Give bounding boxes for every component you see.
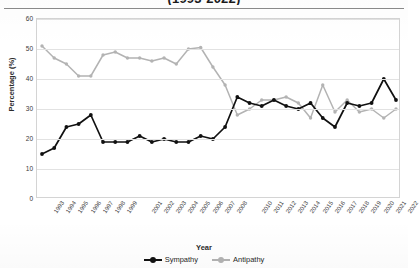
x-tick-label: 2022 — [407, 200, 419, 214]
data-point-antipathy — [126, 56, 129, 59]
data-point-sympathy — [235, 95, 239, 99]
data-point-sympathy — [321, 116, 325, 120]
gridline — [37, 49, 399, 50]
title-divider — [4, 8, 404, 9]
plot-area — [36, 18, 400, 198]
data-point-sympathy — [138, 134, 142, 138]
legend-label: Sympathy — [165, 255, 198, 264]
data-point-sympathy — [260, 104, 264, 108]
y-tick-label: 0 — [3, 195, 33, 202]
x-tick-label: 2014 — [309, 200, 322, 214]
data-point-sympathy — [150, 140, 154, 144]
x-tick-label: 2017 — [346, 200, 359, 214]
x-tick-label: 2002 — [163, 200, 176, 214]
series-line-antipathy — [42, 46, 396, 118]
data-point-sympathy — [199, 134, 203, 138]
data-point-sympathy — [113, 140, 117, 144]
y-tick-label: 10 — [3, 165, 33, 172]
y-tick-label: 40 — [3, 75, 33, 82]
data-point-antipathy — [211, 65, 214, 68]
x-tick-label: 2015 — [321, 200, 334, 214]
data-point-sympathy — [187, 140, 191, 144]
x-tick-label: 1993 — [53, 200, 66, 214]
data-point-antipathy — [114, 50, 117, 53]
legend-item-sympathy[interactable]: Sympathy — [144, 255, 198, 264]
legend-swatch-icon — [144, 259, 162, 261]
data-point-antipathy — [260, 98, 263, 101]
x-tick-label: 1996 — [89, 200, 102, 214]
data-point-sympathy — [65, 125, 69, 129]
gridline — [37, 79, 399, 80]
data-point-sympathy — [126, 140, 130, 144]
data-point-sympathy — [40, 152, 44, 156]
x-tick-label: 2007 — [224, 200, 237, 214]
x-tick-label: 2012 — [285, 200, 298, 214]
data-point-antipathy — [77, 74, 80, 77]
x-tick-label: 2021 — [394, 200, 407, 214]
x-tick-label: 2008 — [236, 200, 249, 214]
data-point-sympathy — [370, 101, 374, 105]
x-tick-label: 1995 — [77, 200, 90, 214]
data-point-sympathy — [52, 146, 56, 150]
data-point-sympathy — [333, 125, 337, 129]
data-point-antipathy — [101, 53, 104, 56]
y-tick-label: 50 — [3, 45, 33, 52]
data-point-antipathy — [358, 110, 361, 113]
data-point-antipathy — [175, 62, 178, 65]
data-point-sympathy — [272, 98, 276, 102]
x-tick-label: 2010 — [260, 200, 273, 214]
data-point-sympathy — [309, 101, 313, 105]
data-point-antipathy — [40, 44, 43, 47]
y-tick-label: 60 — [3, 15, 33, 22]
data-point-antipathy — [284, 95, 287, 98]
data-point-sympathy — [357, 104, 361, 108]
data-point-antipathy — [309, 116, 312, 119]
legend-swatch-icon — [212, 259, 230, 261]
x-tick-label: 2011 — [272, 200, 284, 214]
data-point-antipathy — [321, 83, 324, 86]
data-point-antipathy — [150, 59, 153, 62]
x-tick-label: 2018 — [358, 200, 371, 214]
data-point-antipathy — [297, 101, 300, 104]
data-point-antipathy — [382, 116, 385, 119]
y-tick-label: 30 — [3, 105, 33, 112]
x-tick-label: 2005 — [199, 200, 212, 214]
x-tick-label: 1999 — [126, 200, 139, 214]
y-tick-label: 20 — [3, 135, 33, 142]
gridline — [37, 139, 399, 140]
y-axis-ticks: 0102030405060 — [0, 18, 33, 198]
x-tick-label: 1997 — [102, 200, 115, 214]
data-point-sympathy — [248, 101, 252, 105]
series-line-sympathy — [42, 79, 396, 154]
data-point-antipathy — [53, 56, 56, 59]
x-tick-label: 2004 — [187, 200, 200, 214]
data-point-sympathy — [345, 101, 349, 105]
x-axis-label: Year — [0, 243, 408, 252]
gridline — [37, 169, 399, 170]
x-tick-label: 1998 — [114, 200, 127, 214]
legend-label: Antipathy — [233, 255, 264, 264]
x-tick-label: 2013 — [297, 200, 310, 214]
data-point-antipathy — [162, 56, 165, 59]
x-tick-label: 1994 — [65, 200, 78, 214]
legend-item-antipathy[interactable]: Antipathy — [212, 255, 264, 264]
data-point-sympathy — [223, 125, 227, 129]
x-tick-label: 2001 — [150, 200, 163, 214]
x-tick-label: 2019 — [370, 200, 383, 214]
x-tick-label: 2006 — [211, 200, 224, 214]
chart-legend: SympathyAntipathy — [0, 255, 408, 264]
chart-title: (1993-2022) — [0, 0, 408, 5]
data-point-antipathy — [223, 83, 226, 86]
x-tick-label: 2020 — [382, 200, 395, 214]
data-point-antipathy — [138, 56, 141, 59]
data-point-sympathy — [284, 104, 288, 108]
data-point-antipathy — [89, 74, 92, 77]
data-point-sympathy — [101, 140, 105, 144]
data-point-antipathy — [65, 62, 68, 65]
data-point-sympathy — [174, 140, 178, 144]
x-axis-ticks: 1993199419951996199719981999200120022003… — [36, 200, 400, 240]
x-tick-label: 2003 — [175, 200, 188, 214]
data-point-antipathy — [333, 110, 336, 113]
data-point-sympathy — [394, 98, 398, 102]
